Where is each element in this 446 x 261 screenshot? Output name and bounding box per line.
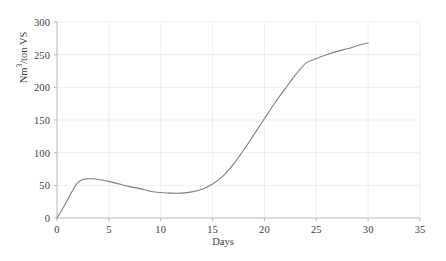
y-tick-label: 0	[0, 213, 50, 224]
x-tick-label: 5	[106, 224, 111, 235]
x-tick-label: 35	[415, 224, 426, 235]
x-axis-title: Days	[0, 236, 446, 247]
x-tick-label: 25	[311, 224, 322, 235]
chart-figure: 050100150200250300 05101520253035 Days N…	[0, 0, 446, 261]
x-tick-label: 15	[207, 224, 218, 235]
y-axis-title-prefix: Nm	[18, 68, 29, 84]
y-tick-label: 50	[0, 180, 50, 191]
gridlines	[57, 22, 420, 218]
x-tick-label: 0	[54, 224, 59, 235]
x-tick-label: 20	[259, 224, 270, 235]
y-axis-title-suffix: /ton VS	[18, 32, 29, 64]
chart-plot-area	[0, 0, 446, 261]
y-axis-title-superscript: 3	[15, 64, 24, 68]
x-tick-label: 10	[155, 224, 166, 235]
y-tick-label: 100	[0, 147, 50, 158]
x-tick-label: 30	[363, 224, 374, 235]
y-axis-title: Nm3/ton VS	[18, 0, 29, 118]
